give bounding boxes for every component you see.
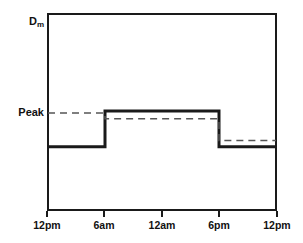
y-axis-label-peak: Peak — [18, 107, 44, 118]
x-tick-mark-4 — [276, 211, 278, 217]
x-tick-mark-1 — [103, 211, 105, 217]
x-tick-label-0: 12pm — [33, 220, 60, 231]
x-tick-mark-3 — [218, 211, 220, 217]
x-tick-mark-0 — [46, 211, 48, 217]
plot-area-frame — [47, 13, 277, 211]
x-tick-label-2: 12am — [149, 220, 176, 231]
x-tick-label-1: 6am — [93, 220, 114, 231]
y-axis-label-max-demand-base: D — [29, 15, 37, 27]
y-axis-label-max-demand: Dm — [29, 16, 44, 27]
x-tick-label-3: 6pm — [208, 220, 230, 231]
chart-figure: Dm Peak 12pm 6am 12am 6pm 12pm — [0, 0, 303, 243]
x-tick-label-4: 12pm — [263, 220, 290, 231]
y-axis-label-max-demand-subscript: m — [37, 20, 44, 29]
x-tick-mark-2 — [161, 211, 163, 217]
